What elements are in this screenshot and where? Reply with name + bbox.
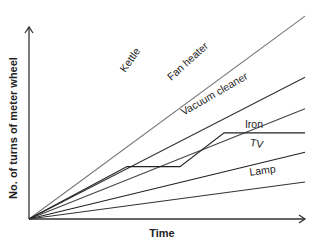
series-line-fan-heater [29, 77, 305, 219]
series-lines [29, 16, 305, 219]
series-line-iron [29, 133, 305, 219]
series-label-kettle: Kettle [117, 45, 142, 74]
series-labels: KettleFan heaterVacuum cleanerIronTVLamp [117, 39, 276, 178]
series-label-vacuum-cleaner: Vacuum cleaner [178, 69, 249, 117]
series-line-kettle [29, 16, 305, 219]
series-label-lamp: Lamp [249, 162, 277, 178]
series-label-fan-heater: Fan heater [164, 39, 210, 82]
series-label-tv: TV [249, 136, 264, 150]
chart: KettleFan heaterVacuum cleanerIronTVLamp… [0, 0, 323, 252]
series-label-iron: Iron [245, 118, 263, 130]
y-axis-label: No. of turns of meter wheel [7, 57, 19, 199]
series-line-tv [29, 152, 305, 219]
x-axis-label: Time [149, 227, 174, 239]
series-line-lamp [29, 182, 305, 219]
